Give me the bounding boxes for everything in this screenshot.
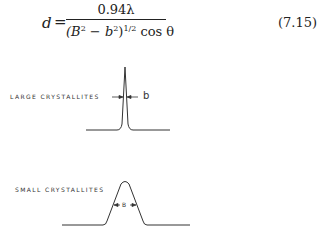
- small-crystallites-label: SMALL CRYSTALLITES: [15, 186, 104, 193]
- width-label-b: b: [143, 90, 149, 101]
- width-arrows-b: [112, 96, 138, 99]
- large-crystallites-label: LARGE CRYSTALLITES: [10, 93, 100, 100]
- crystallite-peak-figure: [0, 0, 318, 231]
- width-label-B: B: [122, 201, 126, 208]
